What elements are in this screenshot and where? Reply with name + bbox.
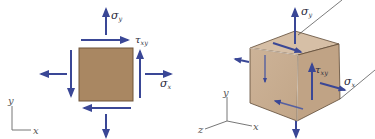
axis-x-label: x (33, 125, 39, 136)
cube-front-face (250, 48, 298, 121)
sigma-x-label: σx (160, 77, 172, 91)
axis-y-label-3d: y (222, 87, 229, 98)
cube-sigma-x-arrow-left (235, 59, 249, 62)
axes-2d: y x (7, 95, 39, 136)
axis-y-label: y (7, 95, 14, 106)
stress-diagram: σy τxy σx y x (0, 0, 375, 139)
cube-sigma-x-label: σx (344, 75, 356, 89)
cube-sigma-y-label: σy (301, 5, 313, 19)
axis-x-label-3d: x (253, 121, 259, 132)
axis-z-label-3d: z (197, 124, 204, 135)
plane-stress-element: σy τxy σx y x (7, 9, 172, 137)
sigma-y-label: σy (111, 9, 123, 23)
tau-xy-label: τxy (135, 34, 148, 47)
cube-stress-element: σy τxy σx y x z (197, 0, 375, 137)
stress-square (79, 48, 133, 101)
cube-side-face (297, 44, 340, 121)
